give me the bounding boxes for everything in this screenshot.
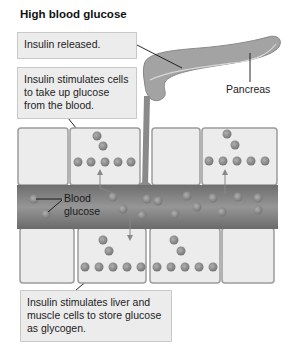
cells-uptake-box: Insulin stimulates cells to take up gluc… [17, 67, 137, 119]
cells-uptake-line-2: to take up glucose [24, 86, 130, 99]
blood-vessel [17, 185, 278, 229]
blood-glucose-label: Blood glucose [64, 192, 100, 218]
liver-muscle-line-2: muscle cells to store glucose [27, 309, 165, 322]
cells-uptake-line-1: Insulin stimulates cells [24, 73, 130, 86]
bottom-cells [20, 228, 274, 283]
pancreas-label: Pancreas [226, 83, 270, 96]
liver-muscle-line-1: Insulin stimulates liver and [27, 296, 165, 309]
blood-glucose-line-2: glucose [64, 205, 100, 218]
cells-uptake-line-3: from the blood. [24, 99, 130, 112]
insulin-released-text: Insulin released. [24, 38, 100, 50]
liver-muscle-box: Insulin stimulates liver and muscle cell… [20, 290, 172, 342]
insulin-released-box: Insulin released. [17, 32, 137, 59]
blood-glucose-line-1: Blood [64, 192, 100, 205]
liver-muscle-line-3: as glycogen. [27, 322, 165, 335]
